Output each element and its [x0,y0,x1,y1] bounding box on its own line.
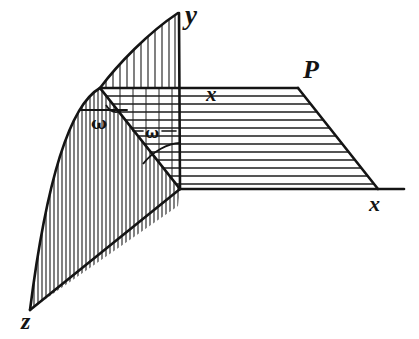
angle-two-arc [143,143,180,164]
plane-right-edge [298,88,378,189]
y-axis-label: y [185,2,197,29]
coordinate-system-diagram [0,0,419,339]
angle-two-omega-label: ω [145,126,159,141]
plane-hatching [0,96,419,184]
x-axis-label: x [369,193,380,215]
angle-one-omega-label: ω [91,115,107,132]
z-region-lower-edge [30,189,180,310]
z-axis-label: z [21,309,30,333]
plane-trace-diagonal [100,88,180,189]
figure-canvas: y P x x z ω ω [0,0,419,339]
curved-boundary-edge [30,13,178,310]
y-axis-line [179,13,180,189]
plane-trace-x-label: x [206,84,217,105]
plane-label: P [303,57,319,83]
